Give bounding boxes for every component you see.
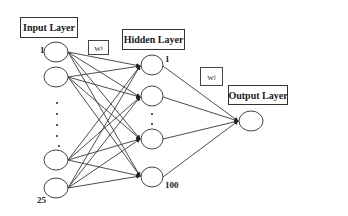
weight-label-wi: Wi [88,40,109,55]
hidden-node [141,167,163,187]
hidden-first-index: 1 [165,54,170,64]
input-node [44,42,68,62]
hidden-layer-label-text: Hidden Layer [124,34,184,45]
input-layer-nodes [44,42,68,198]
hidden-node [141,86,163,106]
weight-symbol: W [94,42,101,53]
weight-subscript: i [101,45,103,51]
input-last-index: 25 [37,195,46,205]
hidden-layer-nodes [141,55,163,187]
output-node [239,111,263,131]
input-ellipsis-dots [56,102,60,147]
neural-network-diagram: Input Layer Hidden Layer Output Layer Wi… [0,0,348,216]
weight-subscript: j [214,74,216,80]
hidden-layer-label: Hidden Layer [122,29,185,50]
input-node [44,67,68,87]
input-layer-label-text: Input Layer [23,22,75,33]
input-node [44,150,68,170]
hidden-ellipsis-dots [151,113,153,125]
hidden-node [141,129,163,149]
output-layer-label-text: Output Layer [228,90,287,101]
weight-label-wj: Wj [200,67,223,86]
input-layer-label: Input Layer [20,17,78,38]
input-node [44,178,68,198]
hidden-last-index: 100 [165,180,179,190]
hidden-node [141,55,163,75]
input-first-index: 1 [40,45,45,55]
weight-symbol: W [207,71,214,82]
output-layer-label: Output Layer [228,85,288,105]
input-to-hidden-connections [68,52,140,188]
